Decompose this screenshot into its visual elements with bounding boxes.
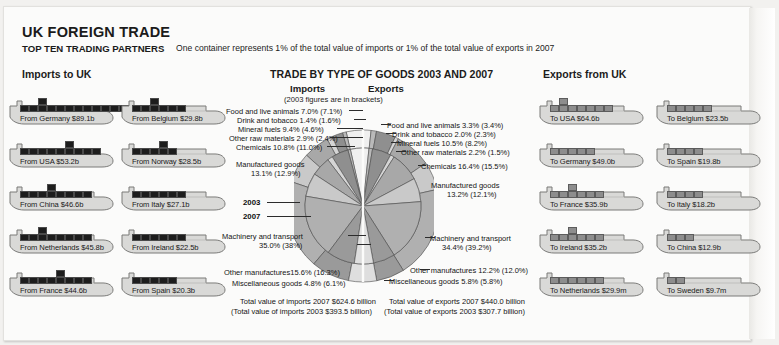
leader-line <box>348 235 366 236</box>
container-column <box>132 234 141 241</box>
container-box <box>685 105 694 112</box>
container-column <box>29 277 38 284</box>
export-ship: To Ireland $35.2b <box>538 217 648 257</box>
container-stack <box>550 184 604 198</box>
export-ship: To China $12.9b <box>655 217 765 257</box>
export-category-label: 34.4% (39.2%) <box>442 243 492 252</box>
container-box <box>667 234 676 241</box>
container-box <box>676 234 685 241</box>
container-box <box>38 227 47 234</box>
container-box <box>550 105 559 112</box>
container-box <box>595 277 604 284</box>
container-box <box>150 148 159 155</box>
container-box <box>65 191 74 198</box>
container-column <box>47 184 56 198</box>
container-column <box>132 148 141 155</box>
container-column <box>56 234 65 241</box>
container-box <box>29 148 38 155</box>
container-column <box>550 234 559 241</box>
chart-note: (2003 figures are in brackets) <box>284 95 383 104</box>
container-stack <box>667 148 703 155</box>
container-column <box>150 98 159 112</box>
export-category-label: Other manufactures 12.2% (12.0%) <box>410 266 528 275</box>
container-column <box>667 105 676 112</box>
container-box <box>568 105 577 112</box>
container-column <box>577 277 586 284</box>
year-leader-line <box>267 216 311 217</box>
container-box <box>38 277 47 284</box>
import-category-label: Chemicals 10.8% (11.0%) <box>236 143 322 152</box>
container-column <box>586 191 595 198</box>
container-box <box>132 191 141 198</box>
container-column <box>132 191 141 198</box>
container-box <box>685 191 694 198</box>
container-box <box>83 105 92 112</box>
container-box <box>685 148 694 155</box>
container-column <box>577 105 586 112</box>
import-ship: From Ireland $22.5b <box>120 217 230 257</box>
container-column <box>159 141 168 155</box>
container-column <box>38 227 47 241</box>
import-ship: From Netherlands $45.8b <box>8 217 118 257</box>
container-box <box>29 277 38 284</box>
container-column <box>568 148 577 155</box>
container-box <box>550 191 559 198</box>
export-ship: To France $35.9b <box>538 174 648 214</box>
container-box <box>559 191 568 198</box>
container-column <box>38 277 47 284</box>
chart-imports-label: Imports <box>290 83 325 94</box>
container-column <box>65 105 74 112</box>
container-box <box>47 148 56 155</box>
imports-heading: Imports to UK <box>22 68 91 80</box>
container-column <box>568 105 577 112</box>
container-box <box>74 277 83 284</box>
container-box <box>577 277 586 284</box>
container-box <box>694 105 703 112</box>
container-box <box>559 105 568 112</box>
container-box <box>65 277 74 284</box>
import-category-label: Machinery and transport <box>222 232 303 241</box>
container-box <box>47 277 56 284</box>
container-box <box>74 148 83 155</box>
import-ship-label: From Germany $89.1b <box>20 114 95 123</box>
export-ship-label: To Germany $49.0b <box>550 157 615 166</box>
container-box <box>38 98 47 105</box>
container-box <box>568 227 577 234</box>
import-ship: From USA $53.2b <box>8 131 118 171</box>
container-box <box>132 234 141 241</box>
container-column <box>550 148 559 155</box>
container-stack <box>667 105 712 112</box>
container-box <box>168 277 177 284</box>
container-box <box>56 148 65 155</box>
container-box <box>132 148 141 155</box>
container-column <box>676 105 685 112</box>
container-stack <box>20 270 92 284</box>
export-ship: To Sweden $9.7m <box>655 260 765 300</box>
container-column <box>141 234 150 241</box>
container-column <box>150 277 159 284</box>
container-box <box>141 234 150 241</box>
container-column <box>65 234 74 241</box>
container-box <box>685 234 694 241</box>
subtitle-bold: TOP TEN TRADING PARTNERS <box>22 43 164 54</box>
container-box <box>29 234 38 241</box>
container-stack <box>132 277 177 284</box>
chart-title: TRADE BY TYPE OF GOODS 2003 AND 2007 <box>270 68 493 80</box>
container-column <box>101 105 110 112</box>
import-category-label: Other raw materials 2.9% (2.4%) <box>229 134 338 143</box>
container-box <box>47 105 56 112</box>
import-category-label: 35.0% (38%) <box>259 241 302 250</box>
import-category-label: Manufactured goods <box>236 160 304 169</box>
container-box <box>101 105 110 112</box>
container-column <box>141 148 150 155</box>
leader-line <box>396 151 406 152</box>
container-box <box>595 105 604 112</box>
leader-line <box>420 269 430 270</box>
container-box <box>150 191 159 198</box>
container-box <box>47 184 56 191</box>
container-box <box>65 141 74 148</box>
export-category-label: Other raw materials 2.2% (1.5%) <box>401 148 510 157</box>
leader-line <box>386 133 396 134</box>
container-column <box>56 105 65 112</box>
container-box <box>694 148 703 155</box>
